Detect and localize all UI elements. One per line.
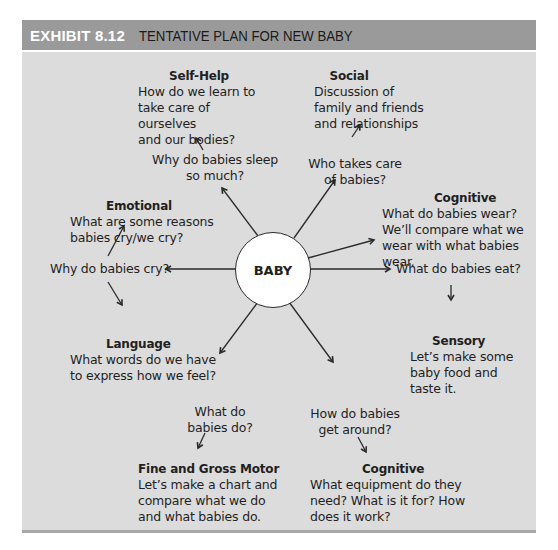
node-text: Discussion of bbox=[314, 84, 434, 100]
node-language: Language What words do we have to expres… bbox=[70, 336, 220, 384]
node-text: of babies? bbox=[300, 172, 410, 188]
node-social: Social Discussion of family and friends … bbox=[314, 68, 434, 132]
node-text: and our bodies? bbox=[138, 132, 264, 148]
node-heading: Emotional bbox=[106, 198, 220, 214]
arrow-to-cognitive-equipment bbox=[358, 437, 366, 452]
node-self-help: Self-Help How do we learn to take care o… bbox=[134, 68, 264, 148]
node-around-question: How do babies get around? bbox=[300, 406, 410, 438]
node-text: What are some reasons bbox=[70, 214, 220, 230]
node-text: babies cry/we cry? bbox=[70, 230, 220, 246]
node-text: What do babies eat? bbox=[396, 261, 536, 277]
arrow-to-cognitive-wear bbox=[308, 240, 374, 258]
node-fine-gross-motor: Fine and Gross Motor Let’s make a chart … bbox=[138, 461, 298, 525]
arrow-to-sleep-question bbox=[222, 188, 258, 236]
node-emotional: Emotional What are some reasons babies c… bbox=[70, 198, 220, 246]
arrow-to-do-question bbox=[220, 302, 258, 353]
node-text: so much? bbox=[150, 168, 280, 184]
node-cognitive-equipment: Cognitive What equipment do they need? W… bbox=[310, 461, 480, 525]
node-cognitive-wear: Cognitive What do babies wear? We’ll com… bbox=[382, 190, 532, 270]
node-text: wear with what babies bbox=[382, 238, 532, 254]
node-text: take care of ourselves bbox=[138, 100, 264, 132]
node-heading: Sensory bbox=[432, 333, 530, 349]
node-text: Why do babies sleep bbox=[150, 152, 280, 168]
node-text: What words do we have bbox=[70, 352, 220, 368]
node-heading: Fine and Gross Motor bbox=[138, 461, 298, 477]
node-text: What do babies wear? bbox=[382, 206, 532, 222]
node-text: How do we learn to bbox=[138, 84, 264, 100]
node-sleep-question: Why do babies sleep so much? bbox=[150, 152, 280, 184]
node-text: need? What is it for? How bbox=[310, 493, 480, 509]
node-care-question: Who takes care of babies? bbox=[300, 156, 410, 188]
node-sensory: Sensory Let’s make some baby food and ta… bbox=[410, 333, 530, 397]
node-text: Who takes care bbox=[300, 156, 410, 172]
node-text: Why do babies cry? bbox=[50, 261, 170, 277]
arrow-to-care-question bbox=[294, 180, 335, 238]
node-text: Let’s make some bbox=[410, 349, 530, 365]
node-text: We’ll compare what we bbox=[382, 222, 532, 238]
node-text: taste it. bbox=[410, 381, 530, 397]
node-heading: Cognitive bbox=[362, 461, 480, 477]
node-text: What do bbox=[180, 404, 260, 420]
node-text: and what babies do. bbox=[138, 509, 298, 525]
node-text: How do babies bbox=[300, 406, 410, 422]
node-text: compare what we do bbox=[138, 493, 298, 509]
node-text: get around? bbox=[300, 422, 410, 438]
node-heading: Language bbox=[106, 336, 220, 352]
node-text: does it work? bbox=[310, 509, 480, 525]
node-text: family and friends bbox=[314, 100, 434, 116]
node-do-question: What do babies do? bbox=[180, 404, 260, 436]
center-node-baby: BABY bbox=[235, 232, 311, 308]
node-text: to express how we feel? bbox=[70, 368, 220, 384]
node-heading: Self-Help bbox=[134, 68, 264, 84]
node-eat-question: What do babies eat? bbox=[396, 261, 536, 277]
node-text: and relationships bbox=[314, 116, 434, 132]
node-text: What equipment do they bbox=[310, 477, 480, 493]
arrow-to-around-question bbox=[289, 302, 333, 362]
node-text: baby food and bbox=[410, 365, 530, 381]
node-heading: Cognitive bbox=[434, 190, 532, 206]
node-cry-question: Why do babies cry? bbox=[50, 261, 170, 277]
node-heading: Social bbox=[314, 68, 384, 84]
arrow-to-language bbox=[108, 282, 122, 305]
node-text: babies do? bbox=[180, 420, 260, 436]
node-text: Let’s make a chart and bbox=[138, 477, 298, 493]
